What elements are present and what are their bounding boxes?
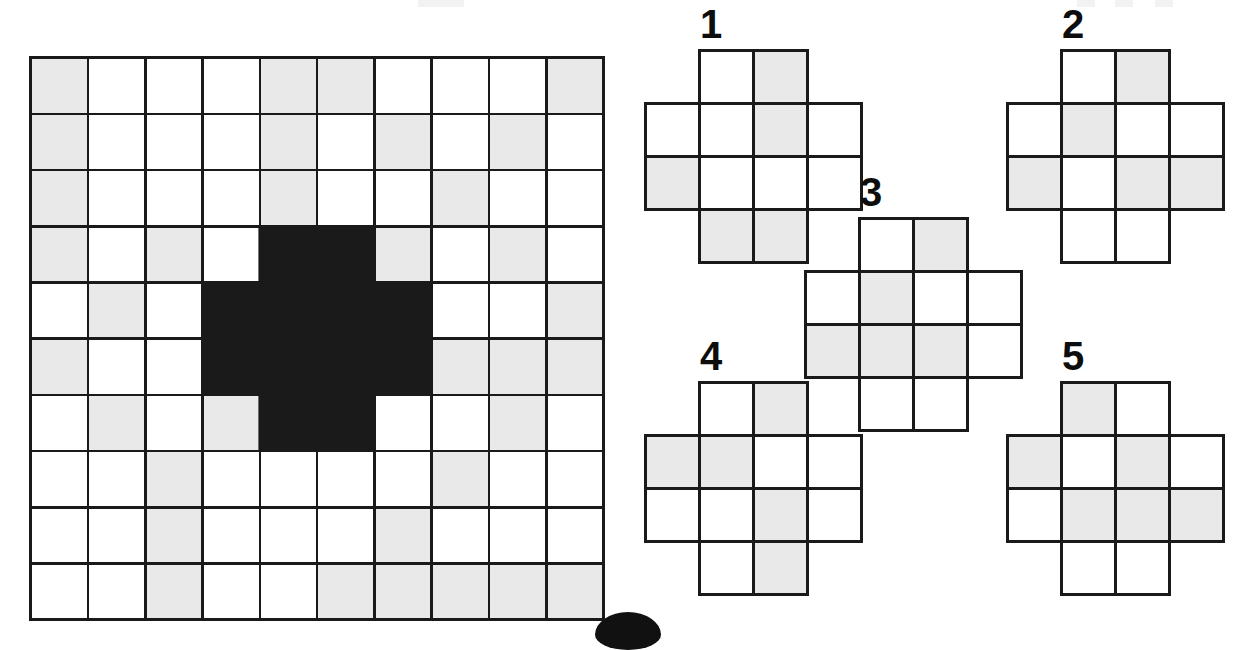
grid-cell	[376, 228, 431, 282]
grid-cell	[261, 452, 316, 506]
grid-cell	[204, 284, 259, 338]
option-cell-empty	[807, 50, 861, 103]
option-5[interactable]: 5	[1007, 382, 1223, 594]
option-cell-empty	[645, 382, 699, 435]
main-pattern-grid-container	[29, 56, 605, 621]
grid-cell	[204, 565, 259, 619]
grid-cell	[318, 171, 373, 225]
option-cell-empty	[1007, 50, 1061, 103]
option-cell	[1006, 155, 1063, 211]
option-cell-empty	[807, 541, 861, 594]
option-cell	[752, 381, 809, 437]
grid-cell	[261, 115, 316, 169]
option-cell	[804, 323, 861, 379]
option-4-label: 4	[700, 336, 721, 376]
grid-cell	[548, 452, 603, 506]
option-cell	[752, 434, 809, 490]
option-cell-empty	[1169, 209, 1223, 262]
grid-cell	[318, 509, 373, 563]
grid-cell	[548, 396, 603, 450]
grid-cell	[147, 396, 202, 450]
option-5-grid[interactable]	[1007, 382, 1223, 594]
option-cell	[1114, 208, 1171, 264]
option-cell	[752, 540, 809, 596]
grid-cell	[433, 396, 488, 450]
option-cell	[1168, 434, 1225, 490]
option-5-label: 5	[1062, 336, 1083, 376]
option-cell	[644, 434, 701, 490]
option-cell-empty	[1169, 382, 1223, 435]
option-cell	[1114, 434, 1171, 490]
option-cell	[858, 376, 915, 432]
option-cell-empty	[645, 50, 699, 103]
grid-cell	[89, 340, 144, 394]
grid-cell	[548, 228, 603, 282]
option-cell-empty	[1007, 382, 1061, 435]
option-cell-empty	[645, 541, 699, 594]
grid-cell	[204, 452, 259, 506]
grid-cell	[32, 509, 87, 563]
grid-cell	[147, 115, 202, 169]
option-cell	[1060, 434, 1117, 490]
option-cell	[806, 102, 863, 158]
option-cell	[858, 217, 915, 273]
grid-cell	[548, 59, 603, 113]
page-number-blob	[595, 612, 661, 650]
option-cell	[1114, 102, 1171, 158]
grid-cell	[147, 509, 202, 563]
option-cell	[806, 487, 863, 543]
option-cell	[1168, 102, 1225, 158]
option-2-grid[interactable]	[1007, 50, 1223, 262]
option-1-label: 1	[700, 4, 721, 44]
grid-cell	[89, 509, 144, 563]
option-cell	[1060, 208, 1117, 264]
option-cell	[858, 270, 915, 326]
option-cell-empty	[807, 382, 861, 435]
option-cell	[644, 155, 701, 211]
grid-cell	[433, 115, 488, 169]
option-cell-empty	[967, 218, 1021, 271]
option-cell	[698, 540, 755, 596]
option-cell	[698, 434, 755, 490]
option-cell	[1168, 155, 1225, 211]
grid-cell	[32, 171, 87, 225]
grid-cell	[433, 509, 488, 563]
grid-cell	[490, 59, 545, 113]
option-cell	[858, 323, 915, 379]
option-cell	[806, 434, 863, 490]
grid-cell	[32, 228, 87, 282]
grid-cell	[204, 171, 259, 225]
option-4-grid[interactable]	[645, 382, 861, 594]
grid-cell	[89, 452, 144, 506]
grid-cell	[204, 115, 259, 169]
option-cell	[1114, 49, 1171, 105]
grid-cell	[548, 171, 603, 225]
grid-cell	[89, 396, 144, 450]
option-cell	[1060, 155, 1117, 211]
option-4[interactable]: 4	[645, 382, 861, 594]
option-2[interactable]: 2	[1007, 50, 1223, 262]
grid-cell	[261, 284, 316, 338]
grid-cell	[548, 509, 603, 563]
grid-cell	[548, 340, 603, 394]
option-cell	[912, 270, 969, 326]
scan-artifact-top-left	[418, 0, 464, 7]
grid-cell	[204, 509, 259, 563]
grid-cell	[490, 396, 545, 450]
option-cell	[806, 155, 863, 211]
grid-cell	[318, 340, 373, 394]
grid-cell	[204, 59, 259, 113]
grid-cell	[204, 396, 259, 450]
grid-cell	[261, 59, 316, 113]
option-cell	[698, 487, 755, 543]
grid-cell	[490, 171, 545, 225]
grid-cell	[32, 452, 87, 506]
grid-cell	[376, 284, 431, 338]
grid-cell	[490, 509, 545, 563]
option-cell	[1114, 487, 1171, 543]
option-cell	[912, 323, 969, 379]
option-cell	[804, 270, 861, 326]
option-cell	[966, 270, 1023, 326]
grid-cell	[433, 228, 488, 282]
grid-cell	[147, 452, 202, 506]
